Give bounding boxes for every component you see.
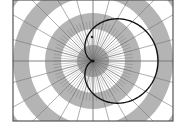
point-marker [91,36,93,38]
polar-plot-canvas [0,0,176,125]
origin-point [91,59,94,62]
